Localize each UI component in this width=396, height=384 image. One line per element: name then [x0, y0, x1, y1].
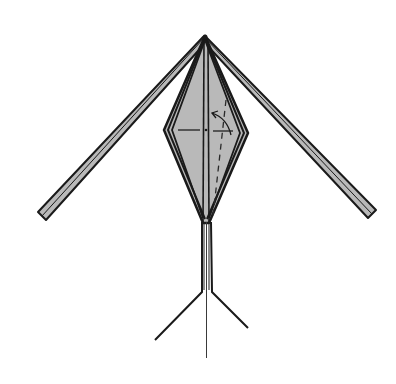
origami-diagram	[0, 0, 396, 384]
apex-point	[203, 35, 208, 40]
legs	[155, 222, 248, 340]
